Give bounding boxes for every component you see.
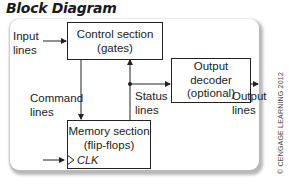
control-section-sublabel: (gates) bbox=[68, 41, 162, 55]
input-lines-text-1: Input bbox=[13, 29, 39, 43]
output-decoder-label-2: decoder bbox=[172, 74, 250, 88]
control-section-label: Control section bbox=[68, 27, 162, 41]
command-lines-label: Command lines bbox=[30, 91, 83, 119]
output-lines-text-1: Output bbox=[232, 89, 267, 103]
command-lines-text-2: lines bbox=[30, 105, 83, 119]
status-lines-text-2: lines bbox=[135, 103, 168, 117]
clock-label: CLK bbox=[77, 153, 98, 167]
command-lines-text-1: Command bbox=[30, 91, 83, 105]
memory-section-label: Memory section bbox=[68, 124, 150, 138]
input-lines-label: Input lines bbox=[13, 29, 39, 57]
output-lines-label: Output lines bbox=[232, 89, 267, 117]
copyright-credit: © CENGAGE LEARNING 2012 bbox=[277, 72, 284, 174]
output-decoder-label: Output bbox=[172, 60, 250, 74]
memory-section-sublabel: (flip-flops) bbox=[68, 138, 150, 152]
status-lines-text-1: Status bbox=[135, 89, 168, 103]
output-lines-text-2: lines bbox=[232, 103, 267, 117]
input-lines-text-2: lines bbox=[13, 43, 39, 57]
control-section-block: Control section (gates) bbox=[67, 22, 163, 60]
status-lines-label: Status lines bbox=[135, 89, 168, 117]
